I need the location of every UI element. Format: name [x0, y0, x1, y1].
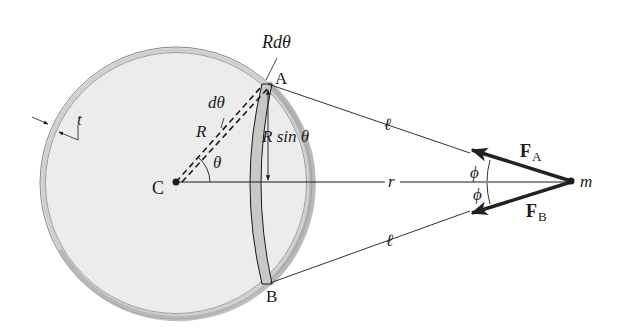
center-point [173, 179, 180, 186]
label-arc-length: Rdθ [261, 32, 291, 52]
svg-text:B: B [538, 209, 547, 224]
label-phi-top: ϕ [470, 163, 479, 182]
label-point-b: B [266, 287, 277, 306]
svg-text:F: F [520, 141, 531, 161]
label-r-sin-theta: R sin θ [261, 127, 309, 146]
phi-arc-top [487, 160, 490, 181]
phi-arc-bottom [487, 183, 490, 204]
label-radius: R [195, 122, 207, 141]
label-point-a: A [275, 69, 288, 88]
label-ell-top: ℓ [384, 115, 391, 134]
mass-point [568, 178, 575, 185]
label-ell-bottom: ℓ [386, 231, 393, 250]
label-force-b: F B [526, 201, 547, 224]
label-center: C [152, 178, 164, 198]
svg-text:A: A [532, 149, 542, 164]
label-distance-r: r [388, 172, 395, 191]
label-force-a: F A [520, 141, 542, 164]
label-phi-bottom: ϕ [473, 185, 482, 204]
label-mass: m [580, 172, 592, 191]
shell-diagram: Rdθ A dθ R θ R sin θ C t B ℓ ℓ r ϕ ϕ m F… [0, 0, 618, 327]
svg-text:F: F [526, 201, 537, 221]
label-theta: θ [213, 153, 221, 172]
label-d-theta: dθ [208, 93, 225, 112]
